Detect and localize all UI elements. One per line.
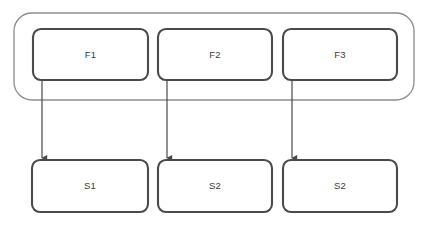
edge-layer [42,80,292,158]
node-f2-label: F2 [209,49,221,60]
top-row-nodes: F1 F2 F3 [33,29,397,80]
node-s2a-label: S2 [209,180,221,191]
diagram-canvas: F1 F2 F3 S1 S2 S2 [0,0,428,228]
node-f2[interactable]: F2 [158,29,272,80]
bottom-row-nodes: S1 S2 S2 [32,160,397,212]
node-s2a[interactable]: S2 [158,160,272,212]
node-f1[interactable]: F1 [33,29,148,80]
node-s1-label: S1 [84,180,96,191]
node-s2b-label: S2 [334,180,346,191]
node-s1[interactable]: S1 [32,160,148,212]
diagram-svg: F1 F2 F3 S1 S2 S2 [0,0,428,228]
node-f3[interactable]: F3 [283,29,397,80]
node-s2b[interactable]: S2 [283,160,397,212]
node-f3-label: F3 [334,49,346,60]
node-f1-label: F1 [85,49,97,60]
